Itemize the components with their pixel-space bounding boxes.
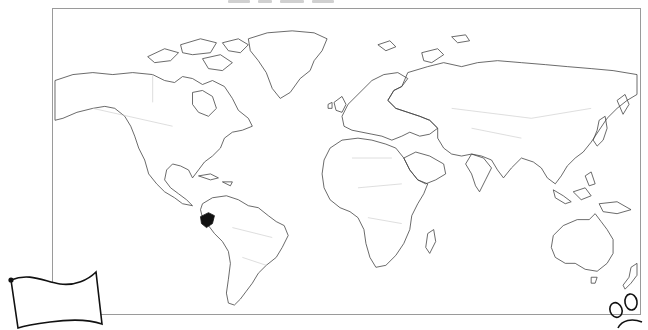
madagascar-outline: [426, 230, 436, 254]
world-map: [52, 8, 641, 315]
caribbean-outline: [199, 174, 233, 186]
europe-outline: [342, 73, 438, 141]
india-outline: [466, 154, 492, 192]
arctic-islands-outline: [148, 39, 249, 71]
new-zealand-outline: [623, 263, 637, 289]
hudson-bay-outline: [193, 90, 217, 116]
country-borders: [93, 75, 591, 266]
japan-outline: [593, 94, 629, 146]
cropped-heading-remnant: [228, 0, 338, 3]
ecuador-highlight: [200, 213, 214, 228]
greenland-outline: [248, 31, 327, 99]
south-america-outline: [200, 196, 288, 305]
north-america-outline: [55, 73, 252, 206]
southeast-asia-islands-outline: [553, 172, 631, 214]
tasmania-outline: [591, 277, 597, 283]
british-isles-outline: [328, 96, 346, 112]
paw-print-icon: [606, 288, 648, 330]
blank-flag-drawing: [0, 262, 110, 330]
arabia-outline: [404, 152, 446, 184]
world-map-outline: [53, 9, 640, 314]
arctic-eurasia-islands-outline: [378, 35, 470, 63]
flag-cloth: [11, 272, 102, 328]
asia-outline: [388, 61, 637, 184]
flagpole-knob: [8, 277, 13, 282]
australia-outline: [551, 214, 613, 272]
africa-outline: [322, 138, 428, 267]
